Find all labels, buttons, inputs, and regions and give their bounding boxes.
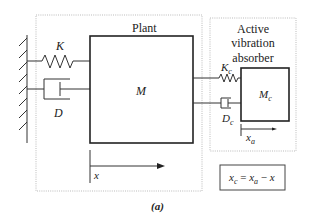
damper-dc-icon (193, 98, 241, 108)
spring-kc-label: Kc (220, 61, 232, 76)
absorber-title-line1: Active (237, 22, 269, 36)
spring-k-label: K (55, 39, 65, 53)
ground-wall-icon (19, 35, 27, 143)
damper-dc-label: Dc (221, 112, 234, 127)
displacement-x-label: x (93, 169, 99, 181)
displacement-xa-label: xa (245, 131, 255, 146)
damper-d-icon (27, 79, 90, 99)
plant-displacement-arrow-icon (90, 150, 158, 183)
arrowhead-icon (272, 128, 277, 131)
equation-text: xc = xa − x (228, 171, 275, 186)
spring-kc-icon (193, 74, 241, 82)
two-dof-vibration-diagram: Plant K M D x Active vibration absorber … (0, 0, 313, 217)
arrowhead-icon (157, 163, 165, 169)
figure-caption: (a) (151, 200, 164, 213)
damper-d-label: D (53, 106, 63, 120)
mass-m-label: M (135, 84, 147, 98)
absorber-title-line3: absorber (232, 51, 273, 65)
spring-k-icon (27, 55, 90, 68)
plant-title: Plant (132, 21, 157, 35)
absorber-title-line2: vibration (231, 36, 274, 50)
